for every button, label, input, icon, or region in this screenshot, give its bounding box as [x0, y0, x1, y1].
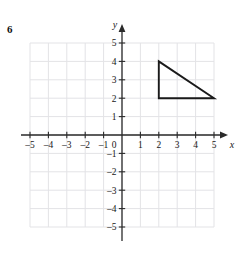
x-tick-label: –4	[43, 140, 54, 150]
y-tick-label: –1	[106, 149, 117, 159]
axis-name-labels: xy	[112, 19, 235, 150]
coordinate-plane-svg: –5–4–3–2–11234554321–1–2–3–4–50 xy	[0, 0, 247, 260]
y-tick-label: 3	[112, 75, 117, 85]
x-tick-label: 2	[156, 140, 161, 150]
x-tick-label: –2	[79, 140, 90, 150]
coordinate-grid-figure: 6 –5–4–3–2–11234554321–1–2–3–4–50 xy	[0, 0, 247, 260]
y-tick-label: 5	[112, 38, 117, 48]
y-tick-label: –2	[106, 167, 117, 177]
y-tick-label: 4	[112, 57, 117, 67]
x-tick-label: –3	[61, 140, 72, 150]
x-axis-name: x	[229, 139, 235, 150]
y-tick-label: 1	[112, 112, 117, 122]
origin-label: 0	[112, 140, 117, 150]
y-tick-label: –3	[106, 186, 117, 196]
x-tick-label: 1	[138, 140, 143, 150]
y-tick-label: –4	[106, 204, 117, 214]
x-tick-label: 3	[175, 140, 180, 150]
x-tick-label: 5	[212, 140, 217, 150]
x-axis-arrowhead	[220, 132, 228, 139]
x-tick-label: 4	[193, 140, 198, 150]
y-tick-label: –5	[106, 222, 117, 232]
x-tick-label: –5	[24, 140, 35, 150]
y-axis-name: y	[112, 19, 118, 30]
y-axis-arrowhead	[119, 24, 126, 32]
y-tick-label: 2	[112, 94, 117, 104]
